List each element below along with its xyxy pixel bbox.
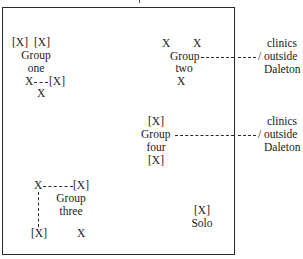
group-one-label: Group [21,49,50,62]
external-label-line2: / outside [258,50,297,63]
group-one-link-left: X [25,75,33,88]
group-four-label: Group [141,128,170,141]
group-one-link-right: [X] [49,75,65,88]
group-four-external-link-line [175,135,234,136]
solo-member: [X] [194,204,210,217]
group-four-member-bottom: [X] [148,154,164,167]
group-one-member-bottom: X [37,87,45,100]
external-label-line3: Daleton [264,141,300,154]
group-one-member-top-left: [X] [12,36,28,49]
group-two-member-top-left: X [162,37,170,50]
group-one-label-name: one [28,62,45,75]
group-three-label-name: three [60,205,83,218]
group-two-label-name: two [175,62,192,75]
solo-label: Solo [191,217,212,230]
group-three-label: Group [56,192,85,205]
group-three-link-line [43,186,73,187]
group-four-member-top: [X] [148,115,164,128]
group-one-link-line [34,82,48,83]
group-three-member-bottom-left: [X] [31,227,47,240]
group-three-member-bottom-right: X [77,227,85,240]
group-two-member-top-right: X [193,37,201,50]
group-three-link-left: X [34,179,42,192]
group-two-external-link-line [201,57,234,58]
group-four-label-name: four [146,141,165,154]
group-three-link-right: [X] [73,179,89,192]
external-link-line [238,135,256,136]
group-three-vertical-link-line [38,192,39,227]
group-one-member-top-right: [X] [34,36,50,49]
external-label-line2: / outside [258,128,297,141]
external-link-line [238,57,256,58]
clipped-caption-fragment [139,0,140,3]
group-two-member-bottom: X [177,75,185,88]
external-label-line1: clinics [267,37,297,50]
external-label-line1: clinics [267,115,297,128]
external-label-line3: Daleton [264,63,300,76]
